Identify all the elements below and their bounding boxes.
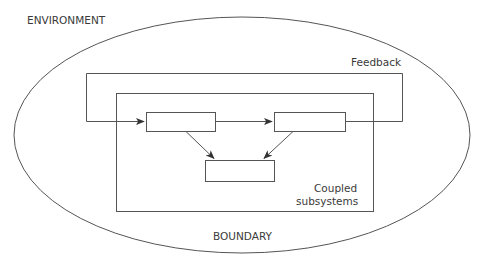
systems-diagram: ENVIRONMENT Feedback Coupled subsystems … xyxy=(0,0,481,265)
feedback-loop-line xyxy=(87,74,403,122)
coupled-subsystems-label-line2: subsystems xyxy=(296,195,358,207)
subsystem-box-c xyxy=(206,161,275,182)
subsystem-box-a xyxy=(147,113,216,132)
arrow-b-to-c xyxy=(264,132,293,159)
subsystem-box-b xyxy=(275,113,346,132)
coupled-subsystems-label-line1: Coupled xyxy=(314,182,357,194)
arrow-a-to-c xyxy=(186,132,214,159)
feedback-label: Feedback xyxy=(351,56,402,68)
boundary-label: BOUNDARY xyxy=(213,230,273,242)
environment-ellipse xyxy=(14,17,470,253)
environment-label: ENVIRONMENT xyxy=(27,14,106,26)
